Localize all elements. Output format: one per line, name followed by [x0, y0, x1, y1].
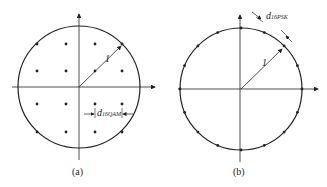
radius-label-b: 1 [262, 57, 267, 68]
radius-arrow [241, 49, 282, 89]
caption-b: (b) [233, 166, 245, 177]
distance-label-b: d16PSK [266, 10, 288, 21]
distance-label-a: d16QAM [97, 107, 121, 118]
distance-subscript-b: 16PSK [271, 14, 288, 20]
distance-subscript-a: 16QAM [102, 111, 121, 117]
radius-arrow [79, 46, 121, 87]
panel-a-16qam [12, 14, 155, 160]
radius-label-a: 1 [105, 53, 110, 64]
panel-b-16psk [178, 12, 318, 162]
constellation-diagrams [0, 0, 327, 187]
caption-a: (a) [72, 166, 83, 177]
